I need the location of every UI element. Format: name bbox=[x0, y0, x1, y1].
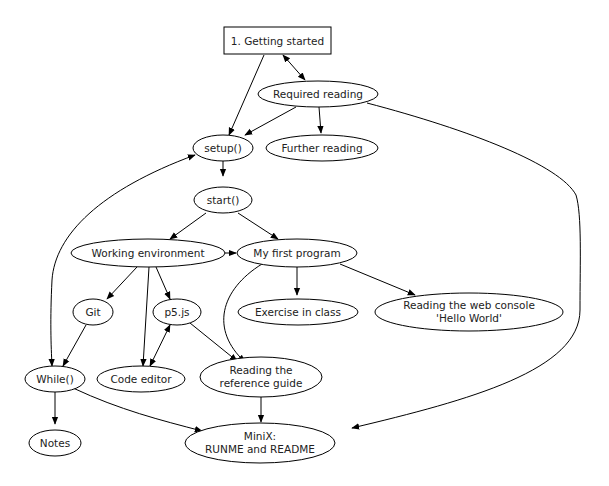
node-label: While() bbox=[36, 373, 74, 385]
node-label: Further reading bbox=[281, 142, 362, 154]
edge-working-environment-code-editor bbox=[143, 267, 149, 366]
node-label-line1: Reading the web console bbox=[403, 299, 535, 311]
node-label: Notes bbox=[40, 437, 70, 449]
node-git[interactable]: Git bbox=[73, 299, 113, 325]
node-code-editor[interactable]: Code editor bbox=[97, 366, 185, 392]
edge-p5js-code-editor bbox=[150, 325, 170, 366]
node-further-reading[interactable]: Further reading bbox=[266, 135, 378, 161]
node-minix[interactable]: MiniX: RUNME and README bbox=[185, 423, 335, 463]
edge-working-environment-p5js bbox=[156, 267, 170, 299]
node-label: Git bbox=[85, 306, 100, 318]
node-required-reading[interactable]: Required reading bbox=[258, 81, 378, 107]
node-label: start() bbox=[207, 194, 240, 206]
node-label-line1: MiniX: bbox=[244, 430, 276, 442]
edge-start-my-first-program bbox=[238, 213, 278, 239]
node-label: My first program bbox=[253, 247, 340, 259]
node-while[interactable]: While() bbox=[25, 366, 85, 392]
node-label: Working environment bbox=[91, 247, 204, 259]
node-label: Code editor bbox=[110, 373, 172, 385]
edge-my-first-program-web-console bbox=[340, 264, 415, 295]
node-reference-guide[interactable]: Reading the reference guide bbox=[200, 357, 322, 397]
diagram-canvas: 1. Getting started Required reading setu… bbox=[0, 0, 609, 486]
node-label-line1: Reading the bbox=[229, 364, 292, 376]
node-label: 1. Getting started bbox=[231, 35, 324, 47]
edge-start-working-environment bbox=[170, 213, 206, 239]
edge-required-reading-setup bbox=[245, 107, 296, 135]
node-start[interactable]: start() bbox=[194, 187, 252, 213]
node-setup[interactable]: setup() bbox=[193, 135, 253, 161]
node-label: setup() bbox=[204, 142, 242, 154]
node-label-line2: reference guide bbox=[220, 377, 303, 389]
node-getting-started[interactable]: 1. Getting started bbox=[224, 27, 331, 54]
node-web-console[interactable]: Reading the web console 'Hello World' bbox=[375, 293, 563, 331]
node-label: p5.js bbox=[164, 306, 189, 318]
edge-p5js-reference-guide bbox=[190, 323, 237, 361]
node-label-line2: RUNME and README bbox=[205, 443, 315, 455]
edge-working-environment-git bbox=[107, 267, 137, 299]
node-label: Exercise in class bbox=[255, 306, 341, 318]
node-notes[interactable]: Notes bbox=[29, 430, 81, 456]
node-exercise-in-class[interactable]: Exercise in class bbox=[238, 299, 358, 325]
node-working-environment[interactable]: Working environment bbox=[71, 239, 225, 267]
edge-git-while bbox=[63, 325, 86, 366]
edge-while-minix bbox=[73, 388, 202, 431]
node-label: Required reading bbox=[273, 88, 363, 100]
node-my-first-program[interactable]: My first program bbox=[237, 239, 357, 267]
node-p5js[interactable]: p5.js bbox=[153, 299, 201, 325]
edge-required-reading-further-reading bbox=[319, 107, 321, 133]
node-label-line2: 'Hello World' bbox=[436, 312, 502, 324]
edge-required-reading-minix bbox=[352, 103, 580, 428]
edge-getting-started-required-reading bbox=[283, 55, 305, 80]
